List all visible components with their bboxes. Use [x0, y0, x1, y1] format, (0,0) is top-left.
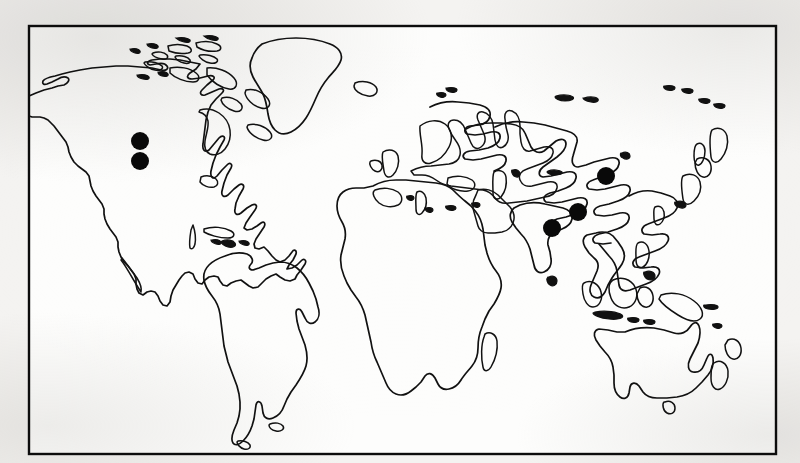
isle-sri-lanka: [547, 276, 557, 286]
isle-new-caledonia: [713, 324, 722, 329]
map-interior-background: [29, 26, 776, 454]
locality-dot: Northern India / Himalaya: [543, 219, 561, 237]
isle-crete: [446, 206, 456, 211]
isle-new-britain: [704, 305, 718, 310]
isle-svalbard-2: [437, 93, 446, 98]
locality-dot: Western North America (north): [131, 132, 149, 150]
locality-dot: Northern China / Mongolia: [597, 167, 615, 185]
locality-dot: Central China: [569, 203, 587, 221]
isle-lesser-sunda-1: [628, 318, 639, 323]
world-map-svg: Western North America (north)Western Nor…: [0, 0, 800, 463]
world-distribution-map-figure: Western North America (north)Western Nor…: [0, 0, 800, 463]
isle-lesser-sunda-2: [644, 320, 655, 325]
marking-tibet-plateau: [547, 170, 562, 175]
isle-corsica-sardinia: [407, 196, 414, 201]
locality-dot: Western North America (south): [131, 152, 149, 170]
isle-new-siberian: [664, 86, 675, 91]
coastline-lake-baikal: [620, 152, 630, 159]
